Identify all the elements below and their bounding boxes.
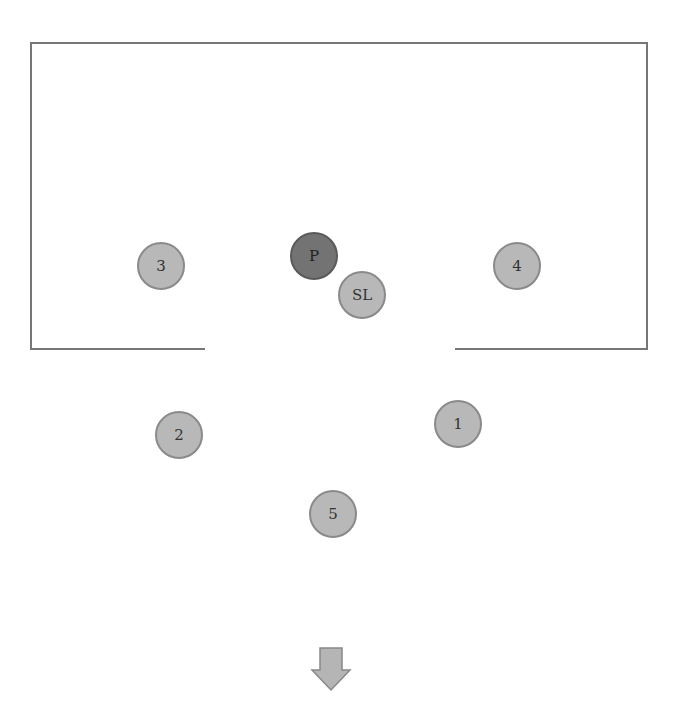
node-label: 4 (512, 257, 522, 275)
node-sl: SL (338, 271, 386, 319)
node-3: 3 (137, 242, 185, 290)
node-4: 4 (493, 242, 541, 290)
node-label: 1 (453, 415, 463, 433)
node-label: 3 (156, 257, 166, 275)
arrow-down-icon (312, 648, 350, 690)
room-outline (0, 0, 683, 719)
node-p: P (290, 232, 338, 280)
node-label: SL (352, 286, 372, 304)
node-label: 5 (328, 505, 338, 523)
node-label: P (309, 247, 319, 265)
node-5: 5 (309, 490, 357, 538)
node-2: 2 (155, 411, 203, 459)
node-1: 1 (434, 400, 482, 448)
node-label: 2 (174, 426, 184, 444)
